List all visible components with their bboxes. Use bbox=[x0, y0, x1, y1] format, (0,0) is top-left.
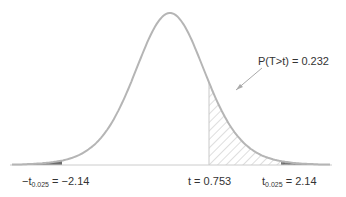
t-distribution-diagram bbox=[0, 0, 346, 197]
left-critical-value: = −2.14 bbox=[49, 175, 89, 187]
p-value-hatched-region bbox=[209, 82, 281, 165]
right-critical-subscript: 0.025 bbox=[265, 181, 283, 188]
left-critical-subscript: 0.025 bbox=[31, 181, 49, 188]
left-critical-label: −t0.025 = −2.14 bbox=[22, 175, 89, 188]
p-value-label: P(T>t) = 0.232 bbox=[258, 55, 329, 67]
right-critical-label: t0.025 = 2.14 bbox=[262, 175, 317, 188]
t-statistic-label: t = 0.753 bbox=[188, 175, 231, 187]
t-distribution-curve bbox=[12, 13, 330, 165]
right-critical-value: = 2.14 bbox=[283, 175, 317, 187]
